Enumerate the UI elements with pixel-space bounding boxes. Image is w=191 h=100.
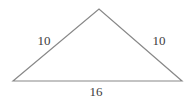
right-side-length-label: 10 xyxy=(153,34,166,47)
left-side-length-label: 10 xyxy=(38,34,51,47)
triangle-figure: 10 10 16 xyxy=(0,0,191,100)
base-length-label: 16 xyxy=(90,85,103,98)
